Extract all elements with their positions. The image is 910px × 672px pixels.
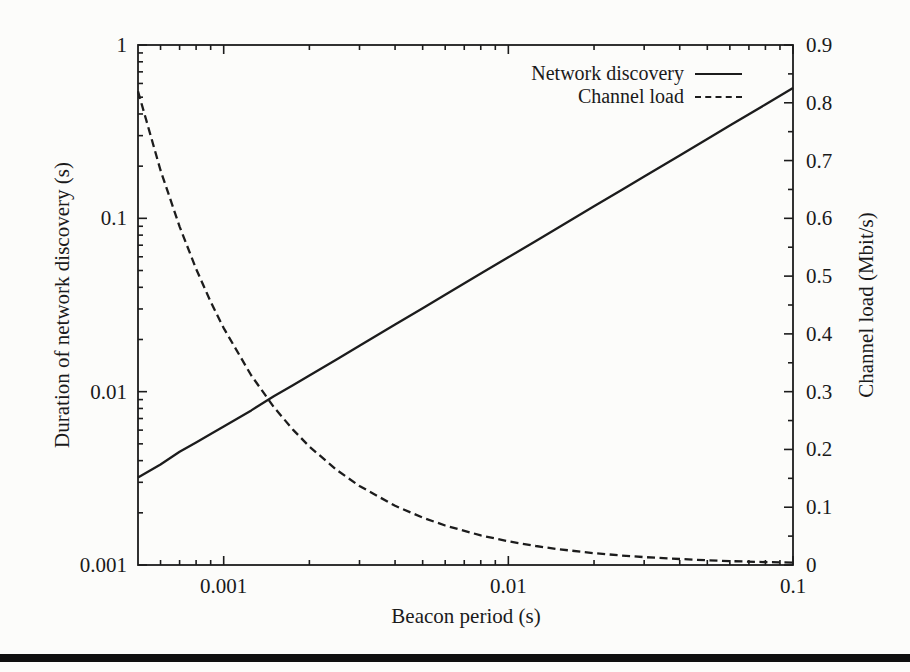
y-right-tick-label: 0.2 [806,437,832,461]
y-right-tick-label: 0.8 [806,91,832,115]
series-line-network-discovery [138,88,793,477]
legend: Network discovery Channel load [360,62,742,108]
x-axis-label: Beacon period (s) [391,604,540,629]
y-axis-left-label: Duration of network discovery (s) [50,162,75,448]
x-tick-label: 0.001 [200,574,247,598]
y-right-tick-label: 0.7 [806,149,832,173]
y-right-tick-label: 0.5 [806,264,832,288]
legend-entry-channel-load: Channel load [360,85,742,108]
y-right-tick-label: 0.4 [806,322,833,346]
scanned-figure-page: 0.0010.010.110.10.010.0010.90.80.70.60.5… [0,0,910,672]
x-tick-label: 0.01 [490,574,527,598]
legend-dashed-line-sample [695,96,742,98]
legend-label-network-discovery: Network discovery [531,62,684,85]
y-left-tick-label: 0.001 [80,553,127,577]
y-right-tick-label: 0.1 [806,495,832,519]
y-left-tick-label: 1 [117,33,128,57]
y-axis-right-label: Channel load (Mbit/s) [854,212,879,397]
y-right-tick-label: 0 [806,553,817,577]
y-right-tick-label: 0.3 [806,380,832,404]
legend-solid-line-sample [695,73,742,75]
y-left-tick-label: 0.01 [90,380,127,404]
x-tick-label: 0.1 [780,574,806,598]
legend-entry-network-discovery: Network discovery [360,62,742,85]
y-right-tick-label: 0.6 [806,206,832,230]
y-right-tick-label: 0.9 [806,33,832,57]
series-line-channel-load [138,91,793,562]
page-bottom-rule [0,654,910,662]
y-left-tick-label: 0.1 [101,206,127,230]
plot-frame [138,45,793,565]
legend-label-channel-load: Channel load [578,85,684,108]
